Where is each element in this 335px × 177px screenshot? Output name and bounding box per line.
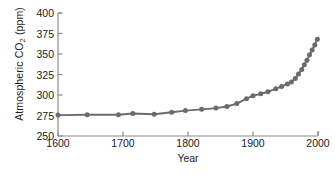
chart-figure: Atmospheric CO2 (ppm) 400 375 350 325 30… (0, 0, 335, 177)
data-point-marker (299, 67, 304, 72)
data-point-marker (234, 101, 239, 106)
data-point-marker (265, 89, 270, 94)
data-point-marker (199, 107, 204, 112)
data-point-marker (279, 84, 284, 89)
data-point-marker (213, 106, 218, 111)
data-point-marker (307, 52, 312, 57)
data-point-marker (152, 112, 157, 117)
data-point-marker (315, 37, 320, 42)
axis-frame (58, 13, 318, 136)
data-point-marker (116, 112, 121, 117)
data-point-marker (251, 93, 256, 98)
data-point-marker (183, 108, 188, 113)
data-point-marker (85, 112, 90, 117)
data-point-marker (289, 79, 294, 84)
data-point-marker (244, 96, 249, 101)
data-point-marker (312, 42, 317, 47)
plot-area (0, 0, 335, 177)
y-axis-ticks (58, 13, 63, 136)
data-point-marker (304, 58, 309, 63)
data-point-marker (169, 110, 174, 115)
data-point-marker (56, 113, 61, 118)
data-point-marker (296, 72, 301, 77)
data-point-marker (302, 62, 307, 67)
data-point-marker (273, 86, 278, 91)
co2-series-markers (56, 37, 320, 118)
data-point-marker (130, 111, 135, 116)
data-point-marker (258, 91, 263, 96)
data-point-marker (310, 47, 315, 52)
data-point-marker (293, 76, 298, 81)
data-point-marker (225, 104, 230, 109)
x-axis-ticks (58, 132, 318, 137)
co2-series-line (58, 39, 317, 115)
